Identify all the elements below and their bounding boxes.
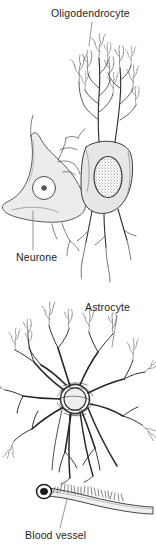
label-blood-vessel: Blood vessel: [25, 530, 86, 541]
astrocyte-soma: [57, 383, 93, 416]
neurone-soma: [2, 133, 85, 223]
label-astrocyte: Astrocyte: [85, 302, 130, 313]
oligodendrocyte-soma: [81, 141, 133, 213]
neuroglia-figure: Oligodendrocyte Neurone Astrocyte Blood …: [0, 0, 156, 553]
label-neurone: Neurone: [16, 252, 57, 263]
neuroglia-illustration: [0, 0, 156, 553]
label-oligodendrocyte: Oligodendrocyte: [51, 8, 130, 19]
blood-vessel: [37, 485, 154, 515]
